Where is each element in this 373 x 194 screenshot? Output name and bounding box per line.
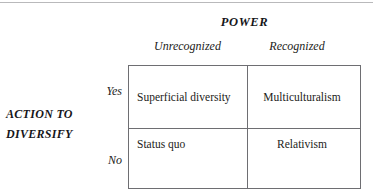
matrix-cell-superficial-diversity: Superficial diversity	[129, 66, 248, 128]
row-axis-title: ACTION TO DIVERSIFY	[6, 104, 73, 144]
matrix-cell-status-quo: Status quo	[129, 128, 248, 188]
matrix-cell-label: Superficial diversity	[137, 91, 231, 103]
column-axis-title: POWER	[128, 15, 361, 30]
page-top-rule	[0, 2, 373, 3]
matrix-cell-label: Status quo	[137, 138, 185, 150]
row-header-yes: Yes	[72, 84, 122, 99]
column-header-recognized: Recognized	[247, 39, 361, 54]
row-header-no: No	[72, 153, 122, 168]
column-header-unrecognized: Unrecognized	[128, 39, 247, 54]
matrix-grid: Superficial diversity Multiculturalism S…	[128, 65, 361, 189]
matrix-cell-label: Relativism	[277, 138, 327, 150]
matrix-cell-multiculturalism: Multiculturalism	[248, 66, 360, 128]
row-axis-title-line-2: DIVERSIFY	[6, 124, 73, 144]
matrix-cell-relativism: Relativism	[248, 128, 360, 188]
row-axis-title-line-1: ACTION TO	[6, 104, 73, 124]
matrix-diagram: POWER Unrecognized Recognized ACTION TO …	[0, 0, 373, 194]
matrix-cell-label: Multiculturalism	[263, 91, 340, 103]
